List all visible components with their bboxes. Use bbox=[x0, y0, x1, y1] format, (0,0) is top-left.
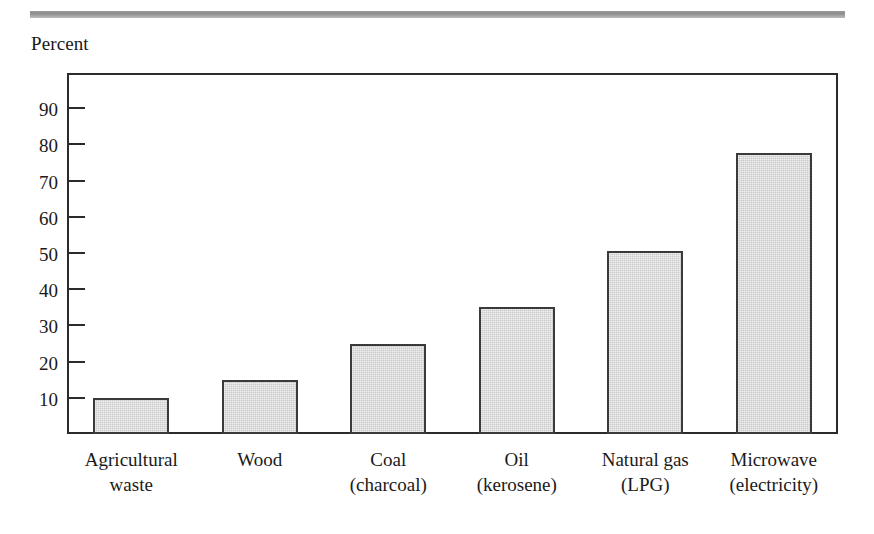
x-axis-category-label: Coal(charcoal) bbox=[324, 447, 453, 497]
y-axis-tick: 10 bbox=[67, 397, 85, 399]
x-axis-category-label-line: Microwave bbox=[710, 447, 839, 472]
y-axis-tick: 80 bbox=[67, 143, 85, 145]
y-axis-tick: 40 bbox=[67, 288, 85, 290]
x-axis-category-label-line: (LPG) bbox=[581, 472, 710, 497]
plot-frame bbox=[67, 73, 838, 434]
x-axis-category-label-line: Agricultural bbox=[67, 447, 196, 472]
y-axis-tick-label: 40 bbox=[39, 281, 58, 300]
y-axis-tick-label: 80 bbox=[39, 136, 58, 155]
bar bbox=[736, 153, 812, 434]
y-axis-tick: 90 bbox=[67, 107, 85, 109]
x-axis-category-label: Agriculturalwaste bbox=[67, 447, 196, 497]
y-axis-tick: 70 bbox=[67, 180, 85, 182]
x-axis-category-label: Microwave(electricity) bbox=[710, 447, 839, 497]
x-axis-category-label-line: Coal bbox=[324, 447, 453, 472]
x-axis-category-label: Oil(kerosene) bbox=[453, 447, 582, 497]
x-axis-category-label-line: Wood bbox=[196, 447, 325, 472]
bar bbox=[607, 251, 683, 434]
y-axis-tick-label: 30 bbox=[39, 317, 58, 336]
y-axis-tick-label: 50 bbox=[39, 245, 58, 264]
y-axis-tick: 60 bbox=[67, 216, 85, 218]
x-axis-category-label-line: (kerosene) bbox=[453, 472, 582, 497]
y-axis-tick-label: 70 bbox=[39, 172, 58, 191]
y-axis-title: Percent bbox=[31, 33, 89, 55]
x-axis-category-label-line: Natural gas bbox=[581, 447, 710, 472]
x-axis-category-label: Natural gas(LPG) bbox=[581, 447, 710, 497]
x-axis-category-label: Wood bbox=[196, 447, 325, 472]
x-axis-category-label-line: waste bbox=[67, 472, 196, 497]
y-axis-tick-label: 10 bbox=[39, 389, 58, 408]
bar bbox=[479, 307, 555, 434]
bar bbox=[350, 344, 426, 435]
x-axis-category-label-line: (charcoal) bbox=[324, 472, 453, 497]
x-axis-category-label-line: (electricity) bbox=[710, 472, 839, 497]
y-axis-tick: 50 bbox=[67, 252, 85, 254]
x-axis-category-label-line: Oil bbox=[453, 447, 582, 472]
y-axis-tick: 30 bbox=[67, 324, 85, 326]
bar-chart-figure: Percent 102030405060708090 Agriculturalw… bbox=[0, 0, 874, 534]
y-axis-tick-label: 60 bbox=[39, 208, 58, 227]
y-axis-tick-label: 90 bbox=[39, 100, 58, 119]
bar bbox=[222, 380, 298, 434]
y-axis-tick: 20 bbox=[67, 361, 85, 363]
top-rule-divider bbox=[30, 11, 845, 18]
y-axis-tick-label: 20 bbox=[39, 353, 58, 372]
bar bbox=[93, 398, 169, 434]
